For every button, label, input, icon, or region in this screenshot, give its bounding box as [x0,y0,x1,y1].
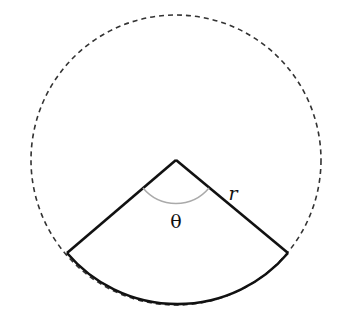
radius-label: r [228,182,239,204]
sector-radius-left [67,160,176,253]
angle-label: θ [170,210,181,232]
sector-radius-right [176,160,288,253]
sector-diagram: θ r [0,0,339,322]
angle-arc [143,188,209,203]
sector-arc [67,253,288,304]
